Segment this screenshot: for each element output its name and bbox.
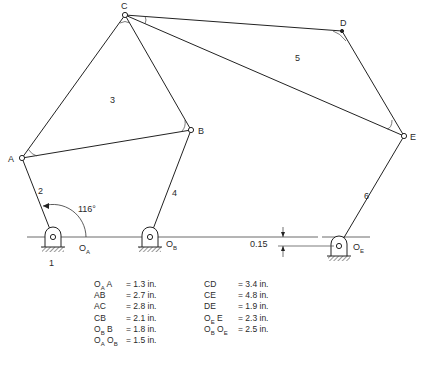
label-d: D xyxy=(340,18,347,28)
label-b: B xyxy=(198,126,204,136)
link-number-2: 2 xyxy=(38,186,43,196)
ground-pivot-oe xyxy=(327,236,351,261)
link-cb xyxy=(125,15,191,130)
link-ab xyxy=(22,130,191,158)
joint-a xyxy=(19,155,24,160)
offset-dimension xyxy=(278,227,334,257)
joint-d xyxy=(340,29,343,32)
ground-pivot-ob xyxy=(138,227,162,252)
joint-c xyxy=(122,12,127,17)
link-number-5: 5 xyxy=(295,53,300,63)
link-number-4: 4 xyxy=(172,188,177,198)
ground-pivot-oa xyxy=(41,227,65,252)
link-oa-a xyxy=(22,158,53,237)
angle-arrowhead xyxy=(43,203,49,209)
label-ob: OB xyxy=(166,239,177,251)
link-number-6: 6 xyxy=(364,191,369,201)
joint-e xyxy=(401,133,406,138)
link-de xyxy=(342,31,404,136)
label-a: A xyxy=(8,154,14,164)
link-ce xyxy=(125,15,404,136)
link-oe-e xyxy=(339,136,404,246)
link-number-1: 1 xyxy=(49,258,54,268)
offset-label: 0.15 xyxy=(250,239,268,249)
link-ac xyxy=(22,15,125,158)
angle-label: 116° xyxy=(78,204,96,214)
angle-arc-e xyxy=(387,120,392,129)
link-ob-b xyxy=(150,130,191,237)
angle-arc-d xyxy=(333,31,346,41)
label-c: C xyxy=(121,1,128,11)
joint-b xyxy=(188,127,193,132)
label-oe: OE xyxy=(353,242,364,254)
angle-arc-b xyxy=(182,120,185,131)
label-e: E xyxy=(410,132,416,142)
angle-arc-a xyxy=(28,149,37,156)
angle-arc-c-right xyxy=(145,16,146,24)
label-oa: OA xyxy=(79,243,90,255)
link-number-3: 3 xyxy=(110,95,115,105)
